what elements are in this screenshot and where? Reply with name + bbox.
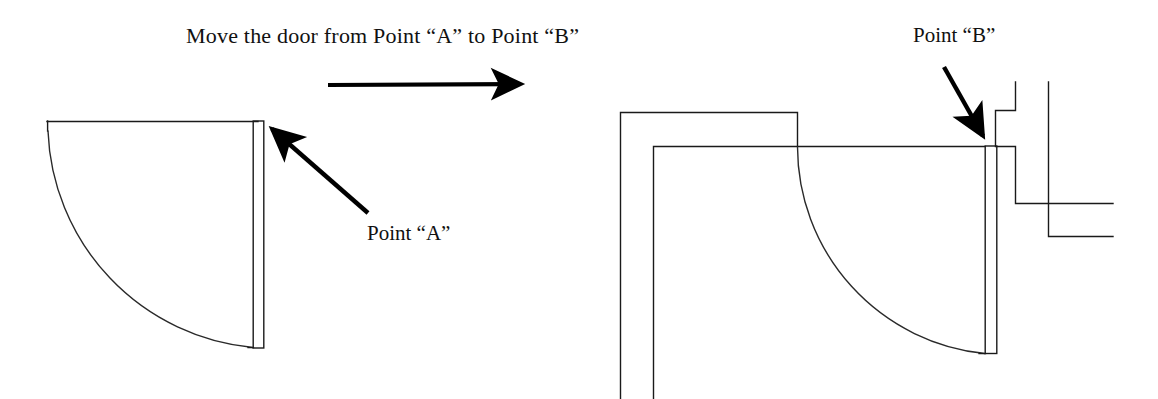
door-plan-after <box>621 82 1114 399</box>
door-leaf-a <box>253 121 264 348</box>
inner-wall-line-b <box>654 147 986 399</box>
door-swing-arc-b <box>798 147 986 354</box>
wall-jog-inner-line-b <box>996 82 1114 204</box>
pointer-arrow-b-icon <box>944 67 983 136</box>
pointer-arrow-a-icon <box>272 129 368 213</box>
point-a-label: Point “A” <box>367 222 450 245</box>
diagram-page: Move the door from Point “A” to Point “B… <box>0 0 1158 399</box>
outer-wall-line-b <box>621 113 798 399</box>
point-b-label: Point “B” <box>913 24 995 47</box>
wall-jog-outer-line-b <box>1049 82 1114 237</box>
door-plan-before <box>47 121 264 348</box>
door-swing-arc-a <box>48 131 253 348</box>
door-leaf-b <box>985 146 997 354</box>
transition-arrow-icon <box>328 84 521 85</box>
instruction-title: Move the door from Point “A” to Point “B… <box>186 24 579 48</box>
floor-plan-drawing <box>0 0 1158 399</box>
